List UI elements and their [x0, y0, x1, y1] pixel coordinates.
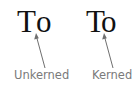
- unkerned-arrow-icon: [34, 33, 45, 68]
- kerned-arrow-icon: [102, 33, 113, 68]
- kerned-label: Kerned: [92, 70, 132, 82]
- unkerned-label: Unkerned: [14, 70, 69, 82]
